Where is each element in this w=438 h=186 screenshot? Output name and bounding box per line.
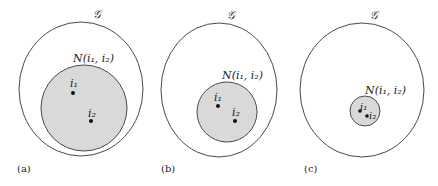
point-i2-label: i₂ [232, 106, 240, 119]
neighborhood-diagram: 𝒢 N(i₁, i₂) i₁ i₂ (a) 𝒢 N(i₁, i₂) i₁ i₂ … [0, 0, 438, 186]
point-i2-label: i₂ [88, 107, 96, 120]
point-i2 [233, 119, 237, 123]
outer-set-label: 𝒢 [93, 8, 103, 21]
point-i1 [216, 104, 220, 108]
point-i1-label: i₁ [360, 101, 367, 112]
neighborhood-region [197, 82, 257, 142]
outer-set-label: 𝒢 [370, 9, 380, 22]
neighborhood-label: N(i₁, i₂) [221, 69, 263, 82]
neighborhood-region [41, 65, 127, 151]
panel-caption: (c) [304, 163, 318, 174]
neighborhood-label: N(i₁, i₂) [72, 52, 114, 65]
outer-set-label: 𝒢 [227, 9, 237, 22]
panel-c: 𝒢 N(i₁, i₂) i₁ i₂ (c) [300, 9, 424, 174]
panel-a: 𝒢 N(i₁, i₂) i₁ i₂ (a) [17, 8, 143, 174]
point-i1 [71, 91, 75, 95]
point-i2-label: i₂ [369, 110, 376, 121]
panel-caption: (a) [17, 163, 31, 174]
panel-caption: (b) [161, 163, 175, 174]
point-i1-label: i₁ [70, 77, 78, 90]
panel-b: 𝒢 N(i₁, i₂) i₁ i₂ (b) [161, 9, 277, 174]
point-i1-label: i₁ [214, 91, 222, 104]
neighborhood-label: N(i₁, i₂) [364, 84, 406, 97]
